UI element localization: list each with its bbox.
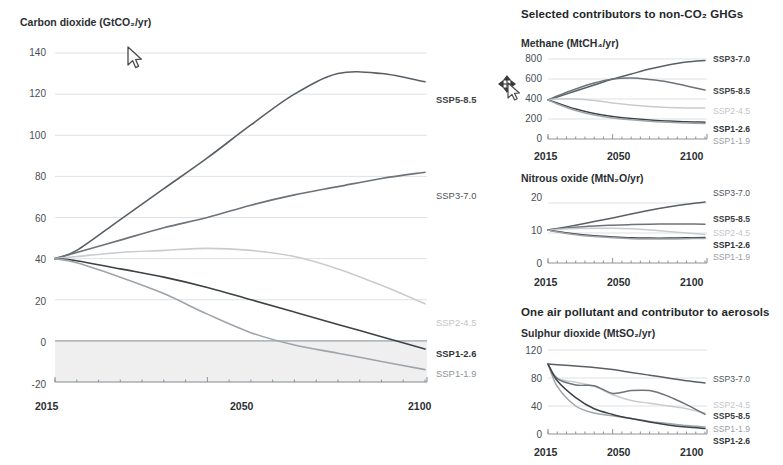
nonco2-section-heading: Selected contributors to non-CO₂ GHGs bbox=[521, 8, 743, 20]
ch4-xtick-2050: 2050 bbox=[607, 150, 630, 162]
co2-series-label-ssp1-1-9: SSP1-1.9 bbox=[436, 368, 477, 379]
n2o-xtick-2100: 2100 bbox=[680, 276, 703, 288]
n2o-xtick-2015: 2015 bbox=[534, 276, 557, 288]
so2-series-label-ssp2-4-5: SSP2-4.5 bbox=[713, 400, 750, 410]
ch4-series-label-ssp1-1-9: SSP1-1.9 bbox=[713, 136, 750, 146]
co2-series-label-ssp3-7-0: SSP3-7.0 bbox=[436, 190, 477, 201]
so2-xtick-2050: 2050 bbox=[607, 446, 630, 458]
so2-series-label-ssp5-8-5: SSP5-8.5 bbox=[713, 411, 750, 421]
so2-xtick-2015: 2015 bbox=[534, 446, 557, 458]
so2-xtick-2100: 2100 bbox=[680, 446, 703, 458]
so2-series-label-ssp1-2-6: SSP1-2.6 bbox=[713, 436, 750, 446]
co2-series-label-ssp5-8-5: SSP5-8.5 bbox=[436, 94, 477, 105]
ch4-series-label-ssp3-7-0: SSP3-7.0 bbox=[713, 54, 750, 64]
co2-series-label-ssp2-4-5: SSP2-4.5 bbox=[436, 317, 477, 328]
n2o-xtick-2050: 2050 bbox=[607, 276, 630, 288]
ch4-xtick-2015: 2015 bbox=[534, 150, 557, 162]
so2-series-label-ssp3-7-0: SSP3-7.0 bbox=[713, 374, 750, 384]
so2-series-label-ssp1-1-9: SSP1-1.9 bbox=[713, 424, 750, 434]
n2o-series-label-ssp5-8-5: SSP5-8.5 bbox=[713, 214, 750, 224]
n2o-series-label-ssp1-1-9: SSP1-1.9 bbox=[713, 252, 750, 262]
ch4-series-label-ssp1-2-6: SSP1-2.6 bbox=[713, 124, 750, 134]
figure-canvas: Carbon dioxide (GtCO₂/yr) 140 120 100 80… bbox=[0, 0, 783, 465]
ch4-series-label-ssp5-8-5: SSP5-8.5 bbox=[713, 86, 750, 96]
aerosol-section-heading: One air pollutant and contributor to aer… bbox=[521, 306, 770, 318]
co2-plot bbox=[0, 0, 500, 420]
ch4-series-label-ssp2-4-5: SSP2-4.5 bbox=[713, 106, 750, 116]
n2o-series-label-ssp1-2-6: SSP1-2.6 bbox=[713, 240, 750, 250]
n2o-series-label-ssp2-4-5: SSP2-4.5 bbox=[713, 228, 750, 238]
ch4-xtick-2100: 2100 bbox=[680, 150, 703, 162]
n2o-axis-title: Nitrous oxide (MtN₂O/yr) bbox=[521, 172, 644, 184]
co2-series-label-ssp1-2-6: SSP1-2.6 bbox=[436, 348, 477, 359]
n2o-series-label-ssp3-7-0: SSP3-7.0 bbox=[713, 188, 750, 198]
